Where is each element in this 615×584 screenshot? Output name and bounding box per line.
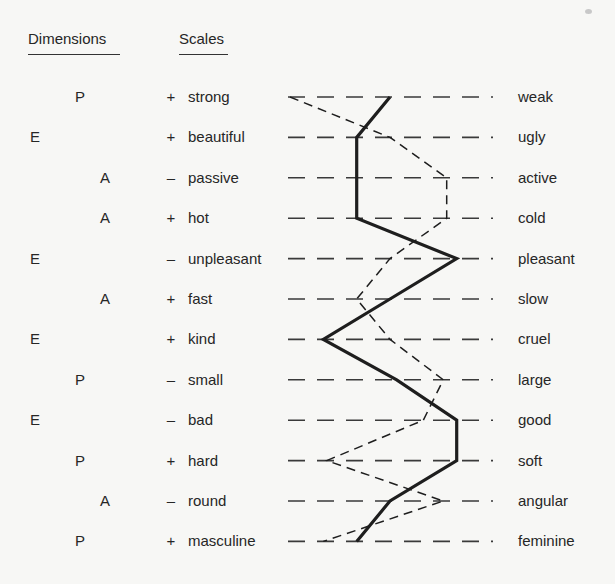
scale-row: A–roundangular: [0, 492, 615, 516]
dimension-label: A: [100, 290, 110, 307]
right-adjective: feminine: [518, 532, 575, 549]
polarity-sign: +: [165, 128, 177, 145]
scale-row: E–badgood: [0, 411, 615, 435]
polarity-sign: –: [165, 411, 177, 428]
dimension-label: A: [100, 209, 110, 226]
dimension-label: P: [75, 371, 85, 388]
right-adjective: cold: [518, 209, 546, 226]
polarity-sign: +: [165, 88, 177, 105]
right-adjective: pleasant: [518, 250, 575, 267]
scale-row: P–smalllarge: [0, 371, 615, 395]
polarity-sign: –: [165, 492, 177, 509]
dimension-label: P: [75, 532, 85, 549]
dimension-label: E: [30, 250, 40, 267]
left-adjective: kind: [188, 330, 216, 347]
left-adjective: bad: [188, 411, 213, 428]
left-adjective: fast: [188, 290, 212, 307]
scale-row: E+kindcruel: [0, 330, 615, 354]
right-adjective: good: [518, 411, 551, 428]
left-adjective: strong: [188, 88, 230, 105]
right-adjective: active: [518, 169, 557, 186]
dimension-label: E: [30, 128, 40, 145]
scale-row: A+fastslow: [0, 290, 615, 314]
right-adjective: cruel: [518, 330, 551, 347]
right-adjective: angular: [518, 492, 568, 509]
dimension-label: E: [30, 411, 40, 428]
scale-row: A–passiveactive: [0, 169, 615, 193]
scale-row: P+strongweak: [0, 88, 615, 112]
dimension-label: P: [75, 452, 85, 469]
left-adjective: hard: [188, 452, 218, 469]
scale-row: E–unpleasantpleasant: [0, 250, 615, 274]
dimension-label: A: [100, 492, 110, 509]
scale-row: E+beautifulugly: [0, 128, 615, 152]
polarity-sign: –: [165, 371, 177, 388]
scale-row: A+hotcold: [0, 209, 615, 233]
scale-row: P+masculinefeminine: [0, 532, 615, 556]
left-adjective: small: [188, 371, 223, 388]
left-adjective: hot: [188, 209, 209, 226]
right-adjective: slow: [518, 290, 548, 307]
polarity-sign: –: [165, 169, 177, 186]
dimension-label: A: [100, 169, 110, 186]
polarity-sign: +: [165, 532, 177, 549]
right-adjective: soft: [518, 452, 542, 469]
left-adjective: passive: [188, 169, 239, 186]
scale-row: P+hardsoft: [0, 452, 615, 476]
left-adjective: round: [188, 492, 226, 509]
polarity-sign: +: [165, 209, 177, 226]
polarity-sign: +: [165, 290, 177, 307]
left-adjective: beautiful: [188, 128, 245, 145]
right-adjective: large: [518, 371, 551, 388]
left-adjective: masculine: [188, 532, 256, 549]
dimension-label: E: [30, 330, 40, 347]
right-adjective: weak: [518, 88, 553, 105]
left-adjective: unpleasant: [188, 250, 261, 267]
dimension-label: P: [75, 88, 85, 105]
right-adjective: ugly: [518, 128, 546, 145]
polarity-sign: –: [165, 250, 177, 267]
polarity-sign: +: [165, 330, 177, 347]
polarity-sign: +: [165, 452, 177, 469]
